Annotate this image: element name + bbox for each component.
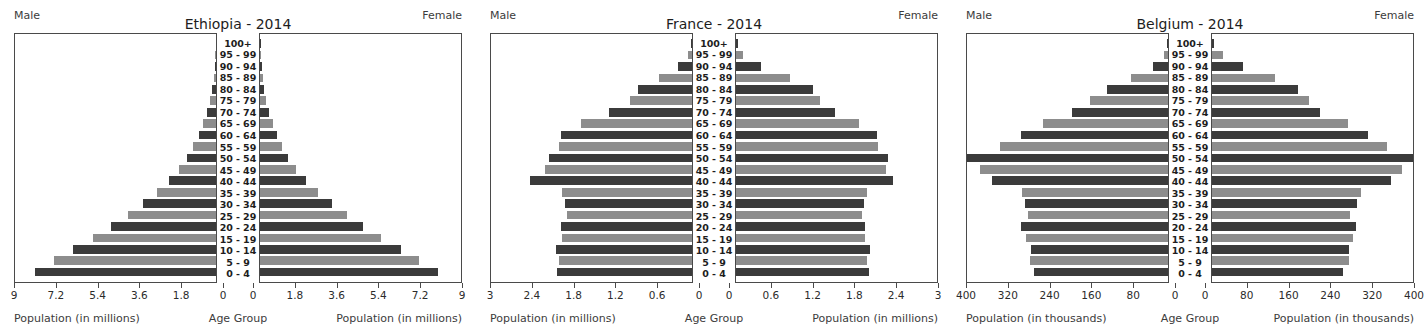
age-group-label: 25 - 29	[1169, 210, 1212, 221]
bar-row	[260, 266, 461, 277]
bar-male	[559, 142, 691, 151]
age-group-row: 45 - 49	[1169, 164, 1212, 176]
bar-row	[260, 255, 461, 266]
bar-female	[260, 108, 269, 117]
bar-female	[1212, 176, 1391, 185]
age-group-label: 25 - 29	[693, 210, 736, 221]
axis-tick	[337, 283, 338, 288]
age-group-row: 70 - 74	[693, 106, 736, 118]
female-axes	[1211, 33, 1414, 283]
bar-row	[260, 38, 461, 49]
bar-male	[199, 131, 216, 140]
bar-row	[736, 255, 937, 266]
bar-row	[15, 266, 216, 277]
bar-male	[967, 154, 1168, 163]
axis-tick	[1008, 283, 1009, 288]
age-group-row: 45 - 49	[217, 164, 260, 176]
bar-male	[212, 85, 216, 94]
bar-row	[736, 152, 937, 163]
axis-tick-label: 5.4	[370, 289, 387, 301]
bar-row	[260, 84, 461, 95]
bar-row	[967, 244, 1168, 255]
age-group-row: 55 - 59	[1169, 141, 1212, 153]
axis-tick	[98, 283, 99, 288]
age-group-label: 80 - 84	[1169, 83, 1212, 94]
age-group-label: 35 - 39	[217, 187, 260, 198]
axis-tick-label: 80	[1240, 289, 1253, 301]
bar-row	[967, 72, 1168, 83]
age-group-row: 35 - 39	[217, 187, 260, 199]
age-group-row: 60 - 64	[1169, 129, 1212, 141]
bar-female	[1212, 154, 1413, 163]
age-group-row: 50 - 54	[1169, 152, 1212, 164]
bar-female	[260, 142, 282, 151]
bar-female	[1212, 62, 1243, 71]
bar-row	[260, 152, 461, 163]
axis-tick-label: 2.4	[888, 289, 905, 301]
bar-row	[967, 221, 1168, 232]
bar-row	[1212, 198, 1413, 209]
bar-female	[260, 176, 306, 185]
bar-male	[73, 245, 216, 254]
bar-row	[260, 95, 461, 106]
bar-female	[736, 119, 858, 128]
bar-female	[260, 154, 288, 163]
axis-tick-label: 1.8	[565, 289, 582, 301]
axis-tick-label: 160	[1081, 289, 1101, 301]
age-group-rows: 100+95 - 9990 - 9485 - 8980 - 8475 - 797…	[693, 37, 736, 279]
axis-tick-label: 7.2	[412, 289, 429, 301]
age-group-label: 5 - 9	[217, 256, 260, 267]
bar-row	[260, 164, 461, 175]
bar-row	[1212, 175, 1413, 186]
age-group-row: 5 - 9	[693, 256, 736, 268]
bar-row	[1212, 118, 1413, 129]
axis-tick	[139, 283, 140, 288]
bar-row	[15, 175, 216, 186]
age-group-row: 65 - 69	[693, 118, 736, 130]
age-group-label: 95 - 99	[1169, 49, 1212, 60]
bar-row	[967, 84, 1168, 95]
bar-female	[736, 222, 864, 231]
bar-row	[967, 198, 1168, 209]
bar-male	[1000, 142, 1168, 151]
age-group-label: 30 - 34	[693, 199, 736, 210]
bar-row	[491, 107, 692, 118]
female-axis-caption: Population (in millions)	[336, 312, 462, 325]
age-group-label: 70 - 74	[217, 106, 260, 117]
age-group-label: 55 - 59	[217, 141, 260, 152]
bar-row	[260, 72, 461, 83]
bar-male	[549, 154, 692, 163]
axis-tick-label: 80	[1127, 289, 1140, 301]
age-group-row: 10 - 14	[217, 245, 260, 257]
axis-tick-label: 240	[1320, 289, 1340, 301]
age-group-label: 10 - 14	[693, 245, 736, 256]
age-group-row: 5 - 9	[1169, 256, 1212, 268]
bar-male	[193, 142, 215, 151]
bar-row	[15, 107, 216, 118]
axis-tick-label: 0	[220, 289, 227, 301]
age-group-label: 100+	[1169, 37, 1212, 48]
bar-row	[260, 49, 461, 60]
panel-header: Male Female Ethiopia - 2014	[14, 9, 462, 25]
age-group-row: 0 - 4	[693, 268, 736, 280]
bar-row	[491, 232, 692, 243]
bar-female	[736, 176, 893, 185]
bar-male	[203, 119, 215, 128]
bar-row	[260, 221, 461, 232]
bar-row	[967, 107, 1168, 118]
age-group-row: 90 - 94	[217, 60, 260, 72]
age-group-label: 0 - 4	[217, 268, 260, 279]
age-group-label: 45 - 49	[693, 164, 736, 175]
bar-female	[260, 119, 272, 128]
age-group-label: 55 - 59	[1169, 141, 1212, 152]
age-group-row: 75 - 79	[693, 95, 736, 107]
bar-female	[1212, 165, 1402, 174]
female-axes	[735, 33, 938, 283]
bar-female	[736, 211, 862, 220]
bar-male	[1030, 256, 1168, 265]
age-group-label: 15 - 19	[1169, 233, 1212, 244]
axis-tick	[14, 283, 15, 288]
bar-row	[1212, 164, 1413, 175]
population-pyramid-figure: Male Female Ethiopia - 2014 100+95 - 999…	[0, 0, 1428, 336]
axis-tick-label: 400	[956, 289, 976, 301]
